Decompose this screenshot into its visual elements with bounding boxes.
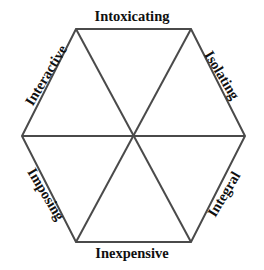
hexagon-graphic <box>0 0 264 270</box>
hexagon-label-bottom: Inexpensive <box>0 246 264 261</box>
hexagon-diagram: Intoxicating Isolating Integral Inexpens… <box>0 0 264 270</box>
hexagon-label-top: Intoxicating <box>0 9 264 24</box>
